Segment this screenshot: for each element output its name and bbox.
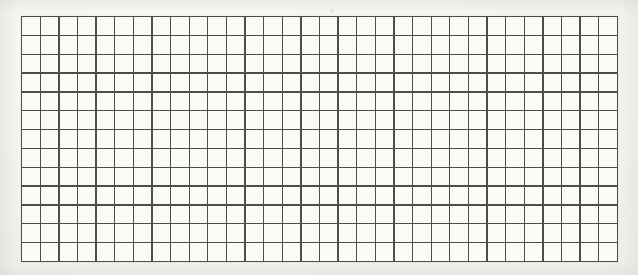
grid-cell[interactable]	[599, 93, 616, 110]
grid-cell[interactable]	[506, 149, 523, 166]
grid-cell[interactable]	[376, 93, 393, 110]
grid-cell[interactable]	[190, 243, 207, 260]
grid-cell[interactable]	[78, 187, 95, 204]
grid-cell[interactable]	[469, 187, 486, 204]
grid-cell[interactable]	[41, 55, 58, 72]
grid-cell[interactable]	[339, 224, 356, 241]
grid-cell[interactable]	[227, 74, 244, 91]
grid-cell[interactable]	[60, 55, 77, 72]
grid-cell[interactable]	[22, 168, 39, 185]
grid-cell[interactable]	[134, 130, 151, 147]
grid-cell[interactable]	[41, 168, 58, 185]
grid-cell[interactable]	[41, 93, 58, 110]
grid-cell[interactable]	[450, 243, 467, 260]
grid-cell[interactable]	[357, 17, 374, 34]
grid-cell[interactable]	[41, 187, 58, 204]
grid-cell[interactable]	[78, 243, 95, 260]
grid-cell[interactable]	[488, 55, 505, 72]
grid-cell[interactable]	[153, 17, 170, 34]
grid-cell[interactable]	[488, 93, 505, 110]
grid-cell[interactable]	[153, 149, 170, 166]
grid-cell[interactable]	[525, 17, 542, 34]
grid-cell[interactable]	[171, 168, 188, 185]
grid-cell[interactable]	[525, 111, 542, 128]
grid-cell[interactable]	[562, 130, 579, 147]
grid-cell[interactable]	[227, 17, 244, 34]
grid-cell[interactable]	[599, 224, 616, 241]
grid-cell[interactable]	[22, 111, 39, 128]
grid-cell[interactable]	[544, 168, 561, 185]
grid-cell[interactable]	[544, 224, 561, 241]
grid-cell[interactable]	[506, 111, 523, 128]
grid-cell[interactable]	[432, 93, 449, 110]
grid-cell[interactable]	[208, 55, 225, 72]
grid-cell[interactable]	[488, 243, 505, 260]
grid-cell[interactable]	[395, 206, 412, 223]
grid-cell[interactable]	[469, 74, 486, 91]
grid-cell[interactable]	[78, 36, 95, 53]
grid-cell[interactable]	[115, 55, 132, 72]
grid-cell[interactable]	[115, 36, 132, 53]
grid-cell[interactable]	[227, 168, 244, 185]
grid-cell[interactable]	[357, 130, 374, 147]
grid-cell[interactable]	[469, 149, 486, 166]
grid-cell[interactable]	[134, 36, 151, 53]
grid-cell[interactable]	[376, 224, 393, 241]
grid-cell[interactable]	[469, 17, 486, 34]
grid-cell[interactable]	[339, 36, 356, 53]
grid-cell[interactable]	[171, 93, 188, 110]
grid-cell[interactable]	[413, 74, 430, 91]
grid-cell[interactable]	[227, 187, 244, 204]
grid-cell[interactable]	[488, 111, 505, 128]
grid-cell[interactable]	[581, 55, 598, 72]
grid-cell[interactable]	[320, 55, 337, 72]
grid-cell[interactable]	[320, 206, 337, 223]
grid-cell[interactable]	[264, 111, 281, 128]
grid-cell[interactable]	[190, 168, 207, 185]
grid-cell[interactable]	[264, 149, 281, 166]
grid-cell[interactable]	[153, 111, 170, 128]
grid-cell[interactable]	[544, 187, 561, 204]
grid-cell[interactable]	[413, 93, 430, 110]
grid-cell[interactable]	[320, 111, 337, 128]
grid-cell[interactable]	[22, 93, 39, 110]
grid-cell[interactable]	[283, 206, 300, 223]
grid-cell[interactable]	[413, 130, 430, 147]
grid-cell[interactable]	[432, 187, 449, 204]
grid-cell[interactable]	[264, 168, 281, 185]
grid-cell[interactable]	[97, 168, 114, 185]
grid-cell[interactable]	[432, 243, 449, 260]
grid-cell[interactable]	[97, 243, 114, 260]
grid-cell[interactable]	[264, 243, 281, 260]
grid-cell[interactable]	[134, 168, 151, 185]
grid-cell[interactable]	[227, 224, 244, 241]
grid-cell[interactable]	[450, 224, 467, 241]
grid-cell[interactable]	[115, 130, 132, 147]
grid-cell[interactable]	[153, 93, 170, 110]
grid-cell[interactable]	[283, 187, 300, 204]
grid-cell[interactable]	[432, 168, 449, 185]
grid-cell[interactable]	[413, 55, 430, 72]
grid-cell[interactable]	[395, 224, 412, 241]
grid-cell[interactable]	[227, 93, 244, 110]
grid-cell[interactable]	[283, 168, 300, 185]
grid-cell[interactable]	[60, 36, 77, 53]
grid-cell[interactable]	[41, 17, 58, 34]
grid-cell[interactable]	[488, 74, 505, 91]
grid-cell[interactable]	[413, 243, 430, 260]
grid-cell[interactable]	[413, 36, 430, 53]
grid-cell[interactable]	[395, 36, 412, 53]
grid-cell[interactable]	[320, 149, 337, 166]
grid-cell[interactable]	[227, 243, 244, 260]
grid-cell[interactable]	[320, 243, 337, 260]
grid-cell[interactable]	[264, 187, 281, 204]
grid-cell[interactable]	[246, 36, 263, 53]
grid-cell[interactable]	[339, 149, 356, 166]
grid-cell[interactable]	[264, 55, 281, 72]
grid-cell[interactable]	[544, 149, 561, 166]
grid-cell[interactable]	[376, 243, 393, 260]
grid-cell[interactable]	[376, 206, 393, 223]
grid-cell[interactable]	[320, 224, 337, 241]
grid-cell[interactable]	[581, 74, 598, 91]
grid-cell[interactable]	[320, 74, 337, 91]
